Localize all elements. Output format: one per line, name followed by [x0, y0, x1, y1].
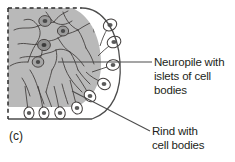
islet-cell	[39, 16, 51, 27]
islet-cell	[38, 39, 51, 50]
islet-cell	[57, 26, 68, 36]
islet-cell	[32, 57, 44, 67]
label-neuropile: Neuropile with islets of cell bodies	[154, 55, 224, 98]
figure-caption: (c)	[9, 129, 23, 143]
label-rind: Rind with cell bodies	[152, 124, 204, 152]
label-rind-line1: Rind with	[152, 124, 204, 138]
figure-container: Neuropile with islets of cell bodies Rin…	[0, 0, 235, 162]
label-rind-line2: cell bodies	[152, 138, 204, 152]
label-neuropile-line3: bodies	[154, 83, 224, 97]
label-neuropile-line1: Neuropile with	[154, 55, 224, 69]
label-neuropile-line2: islets of cell	[154, 69, 224, 83]
